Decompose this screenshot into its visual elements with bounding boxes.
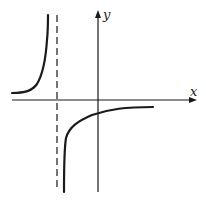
x-axis: [12, 97, 197, 103]
function-graph: y x: [0, 0, 206, 200]
left-branch-curve: [12, 15, 48, 93]
y-axis-label: y: [102, 7, 111, 22]
right-branch-curve: [64, 107, 153, 192]
x-axis-label: x: [190, 84, 198, 99]
y-axis: [95, 10, 101, 192]
y-axis-arrow-icon: [95, 10, 101, 18]
